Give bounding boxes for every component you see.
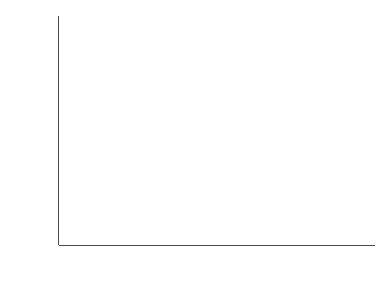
probability-plot-figure bbox=[0, 0, 388, 289]
chart-canvas bbox=[0, 0, 388, 289]
